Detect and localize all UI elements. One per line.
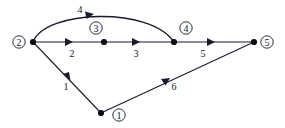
edge-1-arrowhead bbox=[63, 72, 71, 81]
edge-3-arrowhead bbox=[132, 38, 140, 46]
node-5-dot bbox=[251, 39, 257, 45]
node-2[interactable]: 2 bbox=[13, 36, 36, 48]
edge-4-arrowhead bbox=[85, 12, 94, 20]
edge-2-arrowhead bbox=[65, 38, 73, 46]
graph-canvas: 1 2 3 4 bbox=[0, 0, 285, 128]
node-1-dot bbox=[98, 110, 104, 116]
edge-4[interactable]: 4 bbox=[33, 4, 174, 43]
edge-5-label: 5 bbox=[201, 48, 206, 59]
edge-1-label: 1 bbox=[64, 81, 69, 92]
node-1[interactable]: 1 bbox=[98, 109, 125, 121]
edge-5-arrowhead bbox=[207, 38, 215, 46]
edge-6-label: 6 bbox=[172, 81, 177, 92]
node-3-dot bbox=[101, 39, 107, 45]
node-5-label: 5 bbox=[265, 37, 270, 48]
node-2-dot bbox=[30, 39, 36, 45]
edges-group: 1 2 3 4 bbox=[33, 4, 254, 114]
edge-6-line bbox=[101, 42, 254, 113]
edge-1-line bbox=[33, 42, 101, 113]
node-2-label: 2 bbox=[17, 37, 22, 48]
edge-2[interactable]: 2 bbox=[33, 38, 104, 59]
edge-3-label: 3 bbox=[134, 48, 139, 59]
node-4-label: 4 bbox=[184, 23, 189, 34]
edge-4-arc bbox=[33, 16, 174, 42]
edge-1[interactable]: 1 bbox=[33, 42, 101, 113]
node-3-label: 3 bbox=[94, 23, 99, 34]
edge-4-label: 4 bbox=[78, 4, 83, 15]
node-1-label: 1 bbox=[117, 110, 122, 121]
node-4-dot bbox=[171, 39, 177, 45]
nodes-group: 2 3 4 5 bbox=[13, 22, 273, 121]
node-5[interactable]: 5 bbox=[251, 36, 273, 48]
edge-3[interactable]: 3 bbox=[104, 38, 174, 59]
edge-6[interactable]: 6 bbox=[101, 42, 254, 113]
edge-2-label: 2 bbox=[70, 48, 75, 59]
graph-diagram: 1 2 3 4 bbox=[0, 0, 285, 128]
edge-5[interactable]: 5 bbox=[174, 38, 254, 59]
